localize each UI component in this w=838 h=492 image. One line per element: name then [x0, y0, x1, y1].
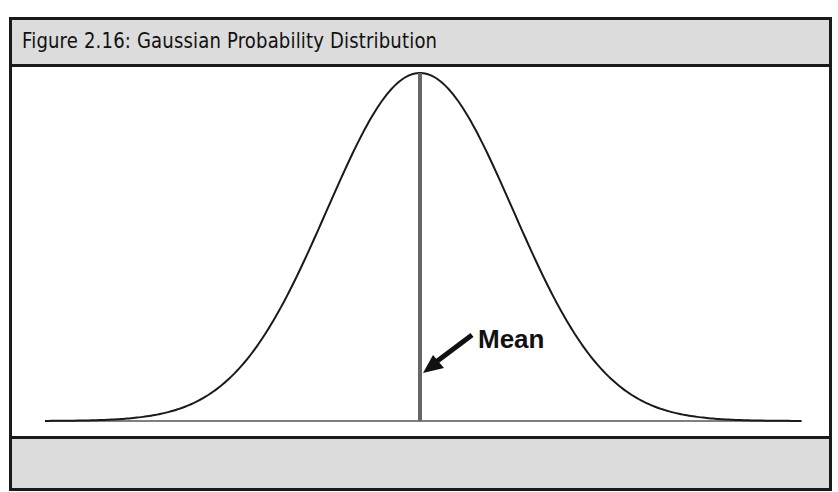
- gaussian-curve: [45, 73, 801, 421]
- figure-footer: [12, 436, 829, 488]
- mean-label: Mean: [478, 324, 544, 354]
- arrow-icon: [423, 335, 472, 373]
- gaussian-plot: Mean: [12, 20, 829, 488]
- figure-frame: Figure 2.16: Gaussian Probability Distri…: [9, 17, 832, 491]
